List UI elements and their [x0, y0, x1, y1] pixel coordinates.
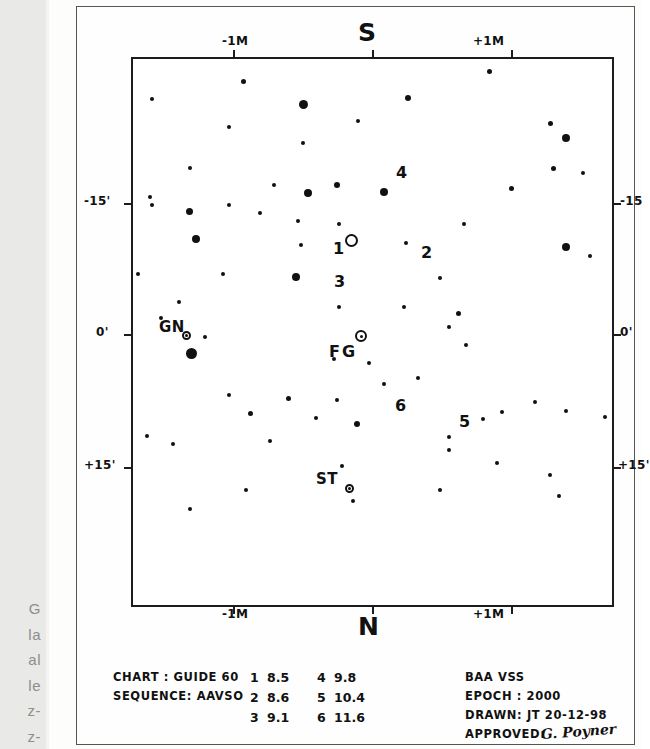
label-comparison-star-6: 6 [395, 396, 406, 415]
footer-chart-block: CHART : GUIDE 60 SEQUENCE: AAVSO [113, 668, 244, 706]
footer-org-value: VSS [498, 670, 525, 684]
star-point [447, 325, 451, 329]
star-point [382, 382, 386, 386]
star-point [438, 276, 442, 280]
axis-tick [124, 467, 133, 469]
mag-value: 8.6 [267, 688, 317, 708]
star-point [292, 273, 300, 281]
x-tick-bottom-left: -1M [222, 607, 248, 621]
bleed-line: le [0, 673, 44, 699]
bleed-line: G [0, 596, 44, 622]
axis-tick [124, 334, 133, 336]
star-point [581, 171, 585, 175]
star-point [148, 195, 152, 199]
star-point [188, 166, 192, 170]
page-gutter-edge [46, 0, 49, 749]
axis-tick [612, 467, 621, 469]
comparison-star-1-marker [345, 234, 358, 247]
axis-tick [511, 605, 513, 614]
star-point [186, 208, 193, 215]
bleed-line: z- [0, 698, 44, 724]
footer-chart-key: CHART : [113, 670, 169, 684]
star-point [241, 79, 246, 84]
label-field-star-gn: GN [159, 318, 185, 336]
bleed-line: al [0, 647, 44, 673]
star-point [462, 222, 466, 226]
star-point [192, 235, 200, 243]
footer-org-line: BAA VSS [465, 668, 607, 687]
star-point [136, 272, 140, 276]
star-point [481, 417, 485, 421]
mag-value: 9.8 [334, 668, 384, 688]
star-point [351, 499, 355, 503]
mag-id: 4 [317, 668, 334, 688]
star-point [500, 410, 504, 414]
axis-tick [372, 605, 374, 614]
footer-epoch-key: EPOCH : [465, 689, 522, 703]
axis-tick [233, 605, 235, 614]
footer-chart-value: GUIDE 60 [174, 670, 239, 684]
y-tick-left-plus15: +15' [84, 458, 116, 472]
label-comparison-star-4: 4 [396, 163, 407, 182]
star-point [588, 254, 592, 258]
axis-tick [612, 334, 621, 336]
star-point [495, 461, 499, 465]
star-point [203, 335, 207, 339]
star-point [272, 183, 276, 187]
star-point [603, 415, 607, 419]
field-star-st-marker [345, 484, 354, 493]
facing-page-text-fragments: G la al le z- z- [0, 596, 44, 749]
star-point [564, 409, 568, 413]
table-row: 1 8.5 4 9.8 [250, 668, 384, 688]
star-point [356, 119, 360, 123]
star-point [404, 241, 408, 245]
star-point [221, 272, 225, 276]
footer-org-key: BAA [465, 670, 493, 684]
axis-tick [511, 50, 513, 59]
star-point [150, 203, 154, 207]
star-point [150, 97, 154, 101]
mag-value: 8.5 [267, 668, 317, 688]
star-point [171, 442, 175, 446]
footer-approved-key: APPROVED: [465, 727, 545, 741]
star-point [548, 121, 553, 126]
star-point [334, 182, 340, 188]
footer-epoch-line: EPOCH : 2000 [465, 687, 607, 706]
star-point [227, 125, 231, 129]
label-comparison-star-3: 3 [334, 272, 345, 291]
star-point [314, 416, 318, 420]
star-point [335, 398, 339, 402]
star-point [188, 507, 192, 511]
star-point [402, 305, 406, 309]
mag-id: 6 [317, 708, 334, 728]
star-point [533, 400, 537, 404]
x-tick-top-right: +1M [473, 34, 504, 48]
footer-drawn-key: DRAWN: [465, 708, 522, 722]
star-point [340, 464, 344, 468]
footer-sequence-value: AAVSO [197, 689, 244, 703]
bleed-line: la [0, 622, 44, 648]
star-point [562, 243, 570, 251]
mag-id: 2 [250, 688, 267, 708]
star-point [227, 393, 231, 397]
x-tick-bottom-right: +1M [473, 607, 504, 621]
y-tick-right-zero: 0' [620, 325, 633, 339]
star-point [456, 311, 461, 316]
star-point [145, 434, 149, 438]
x-tick-top-left: -1M [222, 34, 248, 48]
star-point [337, 305, 341, 309]
star-point [186, 348, 197, 359]
star-point [301, 141, 305, 145]
label-comparison-star-1: 1 [333, 239, 344, 258]
star-point [296, 219, 300, 223]
mag-value: 9.1 [267, 708, 317, 728]
axis-tick [233, 50, 235, 59]
star-point [354, 421, 360, 427]
star-point [438, 488, 442, 492]
star-point [447, 448, 451, 452]
footer-sequence-key: SEQUENCE: [113, 689, 192, 703]
label-variable-star-fg: FG [329, 342, 357, 361]
star-field-plot: 1 2 3 4 5 6 FG GN ST [131, 57, 614, 607]
y-tick-left-minus15: -15' [84, 194, 111, 208]
